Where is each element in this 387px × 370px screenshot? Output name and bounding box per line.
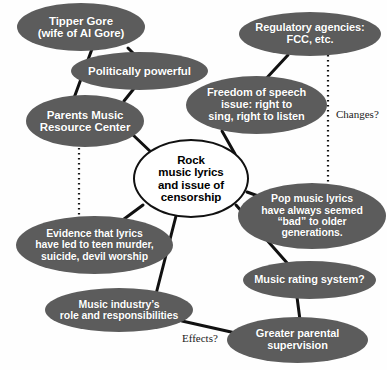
node-label-greater-parental-supervision: Greater parentalsupervision	[251, 328, 344, 352]
node-parents-music-resource-center[interactable]: Parents MusicResource Center	[26, 95, 144, 147]
concept-map-canvas: Tipper Gore(wife of Al Gore)Politically …	[0, 0, 387, 370]
node-label-freedom-of-speech: Freedom of speechissue: right tosing, ri…	[202, 87, 311, 123]
node-music-rating-system[interactable]: Music rating system?	[243, 261, 376, 299]
node-label-regulatory-agencies: Regulatory agencies:FCC, etc.	[250, 22, 369, 46]
node-regulatory-agencies[interactable]: Regulatory agencies:FCC, etc.	[239, 12, 381, 56]
node-evidence-that-lyrics[interactable]: Evidence that lyricshave led to teen mur…	[16, 216, 173, 274]
changes-label: Changes?	[336, 108, 379, 120]
node-label-evidence-that-lyrics: Evidence that lyricshave led to teen mur…	[30, 228, 158, 262]
node-rock-music-lyrics-censorship[interactable]: Rockmusic lyricsand issue ofcensorship	[133, 139, 249, 218]
node-pop-music-lyrics[interactable]: Pop music lyricshave always seemed“bad” …	[238, 183, 386, 249]
node-music-industry-role[interactable]: Music industry’srole and responsibilitie…	[45, 288, 193, 332]
node-freedom-of-speech[interactable]: Freedom of speechissue: right tosing, ri…	[186, 76, 327, 134]
node-label-tipper-gore: Tipper Gore(wife of Al Gore)	[33, 15, 130, 40]
node-label-music-industry-role: Music industry’srole and responsibilitie…	[55, 299, 183, 322]
effects-label: Effects?	[182, 332, 218, 344]
node-greater-parental-supervision[interactable]: Greater parentalsupervision	[227, 317, 368, 363]
node-label-politically-powerful: Politically powerful	[83, 65, 196, 77]
node-tipper-gore[interactable]: Tipper Gore(wife of Al Gore)	[17, 3, 145, 51]
node-label-parents-music-resource-center: Parents MusicResource Center	[35, 109, 136, 134]
node-politically-powerful[interactable]: Politically powerful	[71, 52, 208, 90]
node-label-music-rating-system: Music rating system?	[249, 274, 369, 286]
node-label-rock-music-lyrics-censorship: Rockmusic lyricsand issue ofcensorship	[153, 154, 229, 204]
node-label-pop-music-lyrics: Pop music lyricshave always seemed“bad” …	[256, 193, 368, 238]
